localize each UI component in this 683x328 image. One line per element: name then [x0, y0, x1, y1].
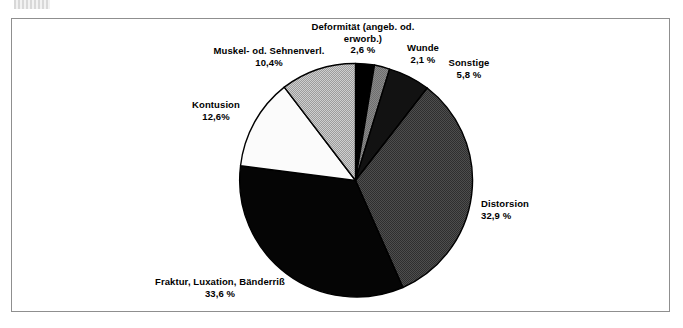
slice-value-fraktur: 33,6 %: [128, 288, 312, 300]
slice-value-kontusion: 12,6%: [168, 111, 264, 123]
slice-label-muskel: Muskel- od. Sehnenverl. 10,4%: [207, 45, 331, 68]
slice-label-deformitaet-line1: Deformität (angeb. od.: [268, 21, 458, 33]
slice-label-muskel-line1: Muskel- od. Sehnenverl.: [207, 45, 331, 57]
slice-value-sonstige: 5,8 %: [433, 69, 505, 81]
slice-label-distorsion-line1: Distorsion: [481, 198, 573, 210]
slice-label-kontusion-line1: Kontusion: [168, 99, 264, 111]
slice-value-distorsion: 32,9 %: [481, 210, 573, 222]
slice-label-sonstige-line1: Sonstige: [433, 57, 505, 69]
slice-value-muskel: 10,4%: [207, 57, 331, 69]
scan-artifact: [14, 0, 50, 9]
slice-label-sonstige: Sonstige 5,8 %: [433, 57, 505, 80]
slice-label-distorsion: Distorsion 32,9 %: [481, 198, 573, 221]
slice-label-kontusion: Kontusion 12,6%: [168, 99, 264, 122]
slice-label-wunde-line1: Wunde: [391, 42, 455, 54]
slice-label-fraktur-line1: Fraktur, Luxation, Bänderriß: [128, 276, 312, 288]
slice-label-fraktur: Fraktur, Luxation, Bänderriß 33,6 %: [128, 276, 312, 299]
pie-graphic: [237, 62, 474, 299]
